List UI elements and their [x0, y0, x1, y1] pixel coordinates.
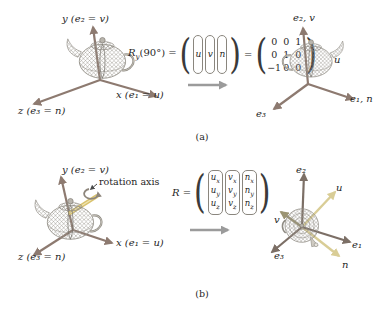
column-vector-v: v [205, 35, 215, 74]
teapot-wireframe-front [282, 209, 318, 247]
e3-axis-arrow [274, 84, 308, 109]
diagram-b-right [250, 158, 390, 311]
rotation-curl-arrow [84, 189, 98, 199]
figure-canvas: y (e₂ = v) x (e₁ = u) z (e₃ = n) Ry(90°)… [0, 0, 390, 311]
a-right-u-label: u [334, 54, 340, 65]
caption-b: (b) [190, 288, 214, 299]
a-right-e3-label: e₃ [256, 108, 266, 119]
a-right-e2-v-label: e₂, v [293, 12, 315, 23]
a-right-e1-n-label: e₁, n [350, 93, 373, 104]
b-right-e2-label: e₂ [296, 164, 306, 175]
b-left-x-axis-label: x (e₁ = u) [116, 237, 164, 248]
open-paren: ( [194, 170, 206, 215]
flow-arrow-b [188, 224, 236, 236]
teapot-wireframe [67, 37, 133, 78]
equation-a-lhs: Ry(90°) = [128, 47, 177, 61]
column-vector-n: n [217, 35, 227, 74]
caption-a: (a) [190, 131, 214, 142]
a-left-x-axis-label: x (e₁ = u) [116, 89, 164, 100]
diagram-a-right [250, 0, 390, 128]
a-left-z-axis-label: z (e₃ = n) [18, 105, 65, 116]
b-left-y-axis-label: y (e₂ = v) [62, 164, 109, 175]
b-right-n-label: n [342, 259, 348, 270]
diagram-b-left [0, 158, 195, 308]
a-left-y-axis-label: y (e₂ = v) [62, 13, 109, 24]
close-paren: ) [229, 34, 241, 75]
open-paren: ( [180, 34, 192, 75]
column-vector-u: u [193, 35, 203, 74]
equation-b-lhs: R = [172, 187, 191, 198]
flow-arrow-a [186, 79, 234, 91]
b-right-e1-label: e₁ [352, 239, 362, 250]
b-right-u-label: u [336, 182, 342, 193]
teapot-wireframe [35, 198, 101, 239]
e1-axis-arrow [308, 84, 353, 99]
column-vector-v: vx vy vz [225, 170, 240, 215]
z-axis-arrow [34, 80, 100, 104]
column-vector-u: ux uy uz [208, 170, 223, 215]
b-left-z-axis-label: z (e₃ = n) [18, 251, 65, 262]
b-right-v-label: v [274, 214, 280, 225]
b-right-e3-label: e₃ [274, 250, 284, 261]
rotation-axis-label: rotation axis [99, 177, 159, 187]
rotation-label-leader-arrow [91, 184, 97, 189]
